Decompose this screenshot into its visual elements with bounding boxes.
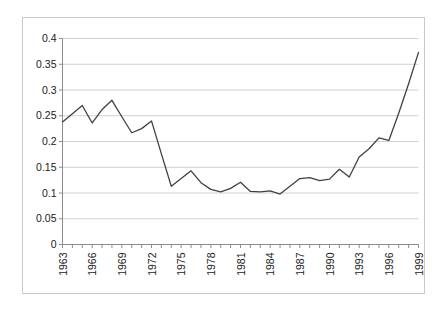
x-tick-label: 1981 xyxy=(235,252,247,276)
y-tick-labels: 00.050.10.150.20.250.30.350.4 xyxy=(36,32,57,250)
y-tick-label: 0.2 xyxy=(42,135,57,147)
y-tick-label: 0 xyxy=(51,238,57,250)
y-tick-label: 0.15 xyxy=(36,161,57,173)
y-tick-label: 0.4 xyxy=(42,32,57,44)
data-series-group xyxy=(63,52,419,194)
y-tick-marks xyxy=(59,39,63,245)
chart-figure: 00.050.10.150.20.250.30.350.4 1963196619… xyxy=(0,0,443,310)
x-tick-label: 1963 xyxy=(57,252,69,276)
gridlines-group xyxy=(63,39,419,245)
y-tick-label: 0.1 xyxy=(42,187,57,199)
x-tick-label: 1975 xyxy=(175,252,187,276)
x-tick-label: 1978 xyxy=(205,252,217,276)
x-tick-label: 1969 xyxy=(116,252,128,276)
y-tick-label: 0.25 xyxy=(36,109,57,121)
x-tick-label: 1999 xyxy=(413,252,425,276)
x-tick-label: 1984 xyxy=(264,252,276,276)
line-chart: 00.050.10.150.20.250.30.350.4 1963196619… xyxy=(0,0,443,310)
x-tick-label: 1996 xyxy=(383,252,395,276)
x-tick-label: 1993 xyxy=(353,252,365,276)
y-tick-label: 0.35 xyxy=(36,58,57,70)
series-line xyxy=(63,52,419,194)
x-tick-labels: 1963196619691972197519781981198419871990… xyxy=(57,252,425,276)
y-tick-label: 0.05 xyxy=(36,212,57,224)
x-tick-label: 1987 xyxy=(294,252,306,276)
x-tick-marks xyxy=(63,245,419,249)
x-tick-label: 1966 xyxy=(86,252,98,276)
x-tick-label: 1990 xyxy=(324,252,336,276)
x-tick-label: 1972 xyxy=(146,252,158,276)
y-tick-label: 0.3 xyxy=(42,84,57,96)
